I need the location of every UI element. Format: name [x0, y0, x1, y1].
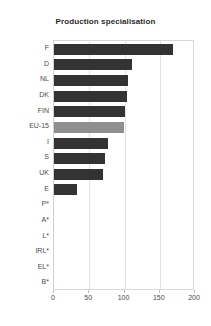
bar-row [54, 166, 195, 183]
y-axis-tick-label: FIN [0, 103, 49, 120]
y-axis-tick-label: I [0, 134, 49, 151]
bar-nl [54, 75, 128, 86]
x-axis-tick [124, 290, 125, 293]
x-axis-tick [194, 290, 195, 293]
y-axis-tick-label: D [0, 56, 49, 73]
bar-fin [54, 106, 125, 117]
bar-row [54, 135, 195, 152]
bar-eu-15 [54, 122, 124, 133]
bar-row [54, 41, 195, 58]
bar-f [54, 44, 173, 55]
bar-i [54, 138, 108, 149]
plot-area [53, 40, 194, 290]
y-axis-tick-label: E [0, 181, 49, 198]
y-axis-tick-label: UK [0, 165, 49, 182]
y-axis-tick-label: DK [0, 87, 49, 104]
x-axis-tick [88, 290, 89, 293]
x-axis-tick-label: 0 [51, 294, 55, 301]
bar-e [54, 184, 77, 195]
x-axis-tick-label: 200 [188, 294, 200, 301]
bar-d [54, 59, 132, 70]
bar-dk [54, 91, 127, 102]
bar-row [54, 197, 195, 214]
bar-row [54, 260, 195, 277]
bar-row [54, 88, 195, 105]
y-axis-tick-label: EU-15 [0, 118, 49, 135]
bar-row [54, 104, 195, 121]
y-axis-tick-label: B* [0, 274, 49, 291]
y-axis-labels: FDNLDKFINEU-15ISUKEP*A*L*IRL*EL*B* [0, 40, 49, 290]
y-axis-tick-label: F [0, 40, 49, 57]
y-axis-tick-label: IRL* [0, 243, 49, 260]
bar-uk [54, 169, 103, 180]
bar-row [54, 182, 195, 199]
bar-row [54, 213, 195, 230]
bar-s [54, 153, 105, 164]
y-axis-tick-label: EL* [0, 259, 49, 276]
y-axis-tick-label: A* [0, 212, 49, 229]
y-axis-tick-label: L* [0, 228, 49, 245]
bar-row [54, 72, 195, 89]
bar-series [54, 41, 193, 289]
y-axis-tick-label: P* [0, 196, 49, 213]
x-axis-tick-label: 100 [118, 294, 130, 301]
x-axis-tick [159, 290, 160, 293]
bar-row [54, 57, 195, 74]
y-axis-tick-label: S [0, 149, 49, 166]
x-axis-tick [53, 290, 54, 293]
bar-row [54, 150, 195, 167]
y-axis-tick-label: NL [0, 71, 49, 88]
x-axis-tick-label: 150 [153, 294, 165, 301]
bar-row [54, 119, 195, 136]
x-axis: 050100150200 [53, 290, 194, 312]
bar-row [54, 229, 195, 246]
x-axis-tick-label: 50 [84, 294, 92, 301]
chart-title: Production specialisation [0, 17, 211, 26]
chart-container: Production specialisation FDNLDKFINEU-15… [0, 0, 211, 326]
bar-row [54, 244, 195, 261]
